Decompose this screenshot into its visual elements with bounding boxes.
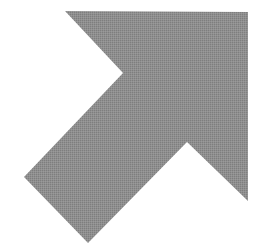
arrow-canvas: Gray arrow pointing up and to the right	[0, 0, 267, 252]
arrow-shape	[24, 11, 248, 243]
arrow-up-right-icon	[0, 0, 267, 252]
